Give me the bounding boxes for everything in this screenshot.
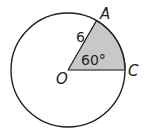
- circle-sector-diagram: A C O 6 60°: [0, 0, 144, 138]
- label-o: O: [56, 70, 68, 88]
- radius-label: 6: [76, 29, 85, 45]
- angle-label: 60°: [81, 52, 106, 68]
- label-c: C: [128, 62, 139, 80]
- label-a: A: [99, 5, 110, 23]
